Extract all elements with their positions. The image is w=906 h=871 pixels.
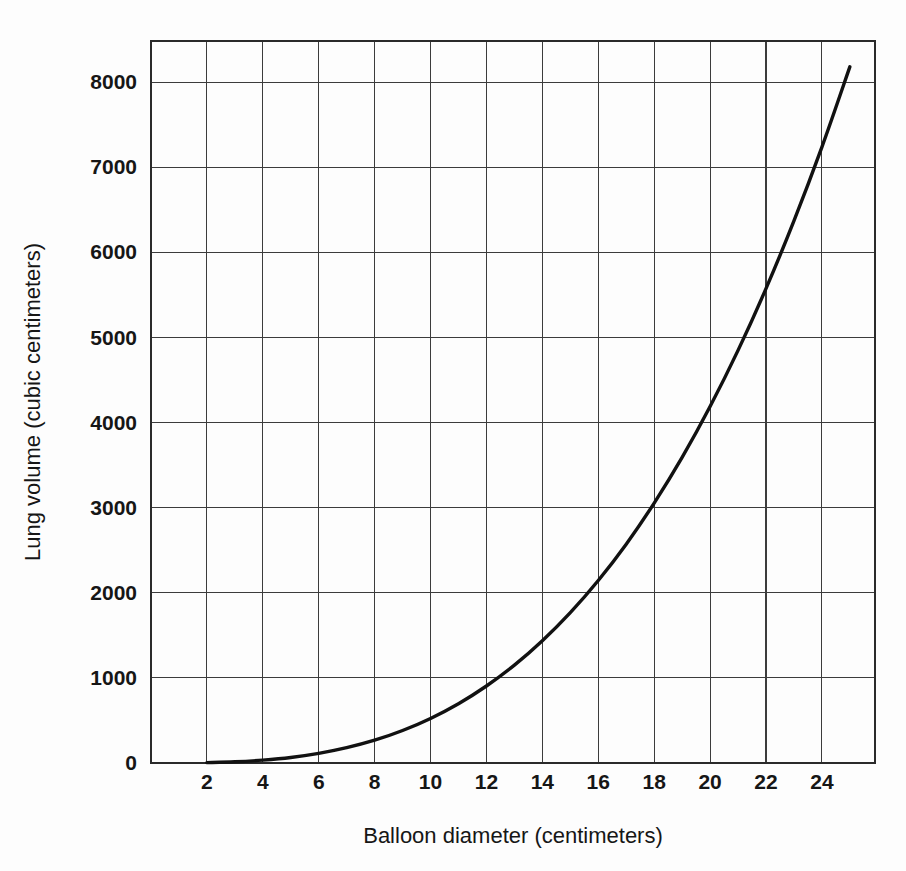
y-tick-label: 5000 [90,326,137,349]
x-tick-label: 4 [257,770,269,793]
x-tick-label: 8 [369,770,381,793]
x-tick-label: 2 [201,770,213,793]
y-tick-label: 3000 [90,496,137,519]
x-tick-label: 10 [419,770,442,793]
x-tick-label: 6 [313,770,325,793]
y-tick-label: 6000 [90,240,137,263]
y-tick-label: 4000 [90,411,137,434]
x-tick-label: 12 [475,770,498,793]
x-tick-label: 24 [810,770,834,793]
y-tick-label: 2000 [90,581,137,604]
x-tick-label: 16 [587,770,610,793]
chart-canvas: 010002000300040005000600070008000 246810… [0,0,906,871]
y-axis-tick-labels: 010002000300040005000600070008000 [90,70,137,774]
x-tick-label: 20 [698,770,721,793]
x-tick-label: 18 [642,770,666,793]
y-tick-label: 0 [125,751,137,774]
x-tick-label: 14 [531,770,555,793]
chart-figure: 010002000300040005000600070008000 246810… [0,0,906,871]
x-tick-label: 22 [754,770,777,793]
y-tick-label: 7000 [90,155,137,178]
y-tick-label: 8000 [90,70,137,93]
chart-background [0,0,906,871]
y-tick-label: 1000 [90,666,137,689]
x-axis-title: Balloon diameter (centimeters) [363,823,663,848]
y-axis-title: Lung volume (cubic centimeters) [20,243,45,561]
